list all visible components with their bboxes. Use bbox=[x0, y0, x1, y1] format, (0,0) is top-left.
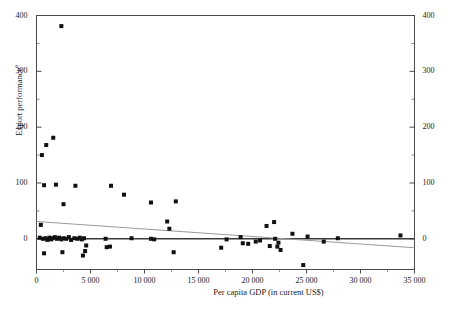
y-axis-tick-label-left: 0 bbox=[0, 234, 28, 243]
data-point bbox=[109, 184, 113, 188]
data-point bbox=[322, 240, 326, 244]
data-point bbox=[246, 242, 250, 246]
data-point bbox=[241, 241, 245, 245]
x-axis-tick-label: 35 000 bbox=[385, 276, 445, 285]
x-axis-title-text: Per capita GDP (in current US$) bbox=[213, 287, 323, 297]
data-point bbox=[108, 245, 112, 249]
data-point bbox=[172, 250, 176, 254]
x-axis-title: Per capita GDP (in current US$) bbox=[0, 287, 457, 297]
data-point bbox=[174, 199, 178, 203]
data-point bbox=[167, 227, 171, 231]
x-axis-tick-label: 20 000 bbox=[223, 276, 283, 285]
data-point bbox=[152, 237, 156, 241]
x-axis-tick-label: 15 000 bbox=[169, 276, 229, 285]
data-point bbox=[51, 136, 55, 140]
data-point bbox=[73, 184, 77, 188]
data-point bbox=[42, 251, 46, 255]
data-point bbox=[225, 237, 229, 241]
data-point bbox=[149, 201, 153, 205]
chart-figure: Export performancea Per capita GDP (in c… bbox=[0, 0, 457, 309]
data-point bbox=[60, 250, 64, 254]
data-point bbox=[265, 224, 269, 228]
data-point bbox=[272, 220, 276, 224]
x-axis-tick-label: 5 000 bbox=[61, 276, 121, 285]
data-point bbox=[62, 202, 66, 206]
y-axis-tick-label-left: 400 bbox=[0, 11, 28, 20]
data-point bbox=[398, 233, 402, 237]
data-point bbox=[239, 235, 243, 239]
data-point bbox=[122, 193, 126, 197]
data-point bbox=[104, 237, 108, 241]
trend-line bbox=[37, 221, 415, 247]
data-point bbox=[258, 238, 262, 242]
data-point bbox=[40, 153, 44, 157]
data-point bbox=[59, 24, 63, 28]
plot-frame bbox=[37, 16, 415, 270]
data-point bbox=[54, 183, 58, 187]
y-axis-tick-label-right: 300 bbox=[423, 66, 435, 75]
data-point bbox=[279, 248, 283, 252]
y-axis-tick-label-left: 100 bbox=[0, 178, 28, 187]
data-point bbox=[42, 183, 46, 187]
data-point bbox=[268, 244, 272, 248]
data-point bbox=[301, 263, 305, 267]
data-point bbox=[290, 232, 294, 236]
x-axis-tick-label: 10 000 bbox=[115, 276, 175, 285]
data-point bbox=[276, 241, 280, 245]
data-point bbox=[39, 223, 43, 227]
data-point bbox=[44, 143, 48, 147]
data-point bbox=[306, 235, 310, 239]
y-axis-tick-label-right: 200 bbox=[423, 122, 435, 131]
x-axis-tick-label: 25 000 bbox=[277, 276, 337, 285]
data-point bbox=[336, 236, 340, 240]
x-axis-tick-label: 0 bbox=[7, 276, 67, 285]
data-point bbox=[165, 219, 169, 223]
y-axis-tick-label-right: 0 bbox=[423, 234, 427, 243]
y-axis-tick-label-left: 300 bbox=[0, 66, 28, 75]
y-axis-tick-label-right: 100 bbox=[423, 178, 435, 187]
data-point bbox=[84, 243, 88, 247]
y-axis-tick-label-right: 400 bbox=[423, 11, 435, 20]
data-point bbox=[81, 254, 85, 258]
data-point bbox=[254, 240, 258, 244]
scatter-plot-canvas bbox=[0, 0, 457, 309]
data-point bbox=[273, 237, 277, 241]
data-point bbox=[83, 249, 87, 253]
x-axis-tick-label: 30 000 bbox=[331, 276, 391, 285]
data-point bbox=[82, 236, 86, 240]
y-axis-tick-label-left: 200 bbox=[0, 122, 28, 131]
data-point bbox=[219, 246, 223, 250]
data-point bbox=[130, 236, 134, 240]
